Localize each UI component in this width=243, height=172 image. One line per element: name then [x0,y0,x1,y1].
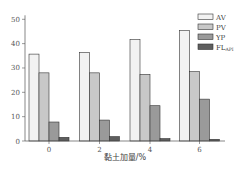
bar-av-4 [130,40,140,141]
x-tick-label: 6 [197,146,202,154]
bars-group [29,30,220,141]
legend-label-pv: PV [216,24,227,32]
y-tick-label: 20 [11,89,20,97]
legend-label-yp: YP [215,34,226,42]
y-tick-label: 10 [11,113,20,121]
y-tick-label: 0 [16,138,20,146]
y-tick-label: 40 [11,40,20,48]
legend-swatch-av [198,14,213,20]
bar-yp-4 [150,106,160,141]
y-tick-label: 50 [11,16,20,24]
y-tick-label: 30 [11,64,20,72]
legend: AVPVYPFLAPI [198,14,234,53]
bar-pv-2 [90,73,100,141]
legend-label-fl: FLAPI [216,44,234,53]
bar-av-2 [80,53,90,141]
bar-fl-2 [110,137,120,141]
bar-yp-0 [49,122,59,141]
bar-pv-4 [140,74,150,141]
bar-chart: 024601020304050 AVPVYPFLAPI 黏土加量/% [0,0,243,172]
x-tick-label: 4 [148,146,153,154]
legend-swatch-fl [198,44,213,50]
bar-yp-2 [100,120,110,141]
legend-swatch-pv [198,24,213,30]
x-tick-label: 0 [47,146,51,154]
x-tick-label: 2 [97,146,101,154]
legend-swatch-yp [198,34,213,40]
bar-av-0 [29,54,39,141]
bar-av-6 [180,30,190,141]
bar-yp-6 [200,99,210,141]
bar-fl-0 [59,137,69,141]
x-axis-label: 黏土加量/% [104,152,147,162]
bar-pv-6 [190,72,200,141]
bar-fl-4 [160,139,170,141]
bar-pv-0 [39,73,49,141]
legend-label-av: AV [215,14,227,22]
